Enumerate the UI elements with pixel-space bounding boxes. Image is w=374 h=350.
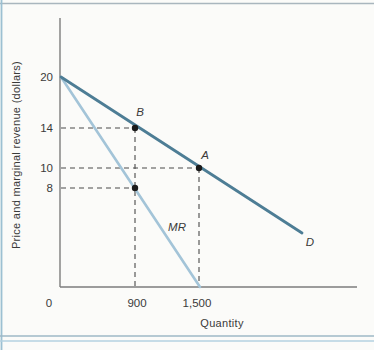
mr-curve-label: MR xyxy=(168,221,186,233)
figure-container: 20 14 10 8 0 900 1,500 Quantity Price an… xyxy=(0,0,374,350)
demand-curve-label: D xyxy=(306,236,314,248)
mr-curve xyxy=(61,77,200,287)
y-axis-title: Price and marginal revenue (dollars) xyxy=(10,61,22,249)
x-tick-0: 0 xyxy=(46,297,52,309)
point-b-dot xyxy=(132,125,138,131)
y-tick-14: 14 xyxy=(40,122,53,134)
x-axis-title: Quantity xyxy=(200,317,244,329)
y-tick-10: 10 xyxy=(40,162,53,174)
monopoly-demand-mr-chart: 20 14 10 8 0 900 1,500 Quantity Price an… xyxy=(0,0,374,350)
mr-900-intersection-dot xyxy=(132,185,138,191)
point-a-dot xyxy=(196,165,202,171)
y-tick-8: 8 xyxy=(47,182,53,194)
point-a-label: A xyxy=(200,149,209,161)
demand-curve xyxy=(61,77,302,233)
x-tick-1500: 1,500 xyxy=(183,297,212,309)
point-b-label: B xyxy=(136,106,144,118)
y-tick-20: 20 xyxy=(40,71,53,83)
x-tick-900: 900 xyxy=(127,297,146,309)
